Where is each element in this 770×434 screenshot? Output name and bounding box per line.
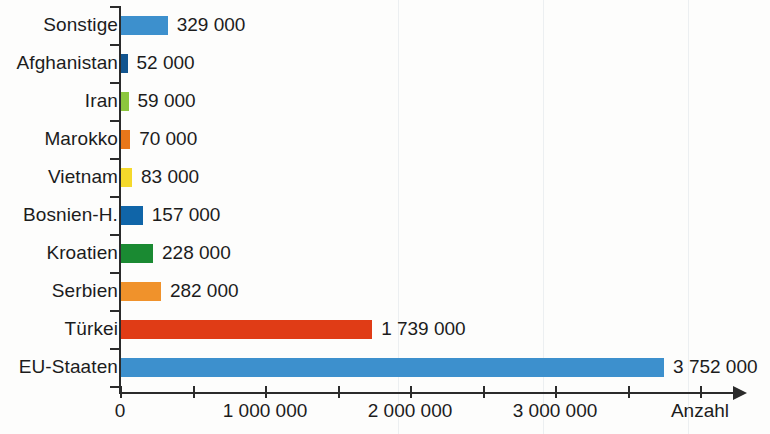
category-label: Marokko [0,128,118,150]
bar [120,92,129,111]
x-axis-tick-label: 2 000 000 [368,400,453,422]
x-axis-line [120,392,736,394]
bar-value-label: 329 000 [177,14,246,36]
bar-row: Vietnam83 000 [0,158,770,196]
bar-and-value: 83 000 [120,158,199,196]
bar [120,168,132,187]
bar-row: Sonstige329 000 [0,6,770,44]
bar-value-label: 52 000 [137,52,195,74]
bar-and-value: 70 000 [120,120,197,158]
x-axis-tick [555,386,557,398]
bar-chart: Sonstige329 000Afghanistan52 000Iran59 0… [0,0,770,434]
category-label: Afghanistan [0,52,118,74]
bar-value-label: 3 752 000 [673,356,758,378]
category-label: Bosnien-H. [0,204,118,226]
y-axis-tick [110,272,121,274]
bar-and-value: 1 739 000 [120,310,466,348]
bar-row: Iran59 000 [0,82,770,120]
y-axis-tick [110,310,121,312]
y-axis-tick [110,196,121,198]
category-label: Vietnam [0,166,118,188]
bar-value-label: 70 000 [139,128,197,150]
bar [120,130,130,149]
bar-value-label: 1 739 000 [381,318,466,340]
bar [120,282,161,301]
bar-row: Marokko70 000 [0,120,770,158]
category-label: EU-Staaten [0,356,118,378]
bar-and-value: 329 000 [120,6,245,44]
bar-value-label: 83 000 [141,166,199,188]
bar [120,54,128,73]
x-axis-tick [410,386,412,398]
x-axis-tick [120,386,122,398]
bar-row: Bosnien-H.157 000 [0,196,770,234]
bar [120,320,372,339]
y-axis-tick [110,158,121,160]
y-axis-tick [110,120,121,122]
y-axis-tick [110,82,121,84]
bar-row: Afghanistan52 000 [0,44,770,82]
x-axis-tick-label: 0 [115,400,126,422]
bar-and-value: 228 000 [120,234,231,272]
bar-and-value: 52 000 [120,44,195,82]
x-axis-tick [483,386,485,398]
bar-row: Serbien282 000 [0,272,770,310]
x-axis-tick [265,386,267,398]
category-label: Sonstige [0,14,118,36]
bar-value-label: 282 000 [170,280,239,302]
x-axis-tick [338,386,340,398]
x-axis-title: Anzahl [671,400,729,422]
category-label: Kroatien [0,242,118,264]
bar-value-label: 228 000 [162,242,231,264]
x-axis-tick [700,386,702,398]
category-label: Serbien [0,280,118,302]
x-axis-tick [628,386,630,398]
category-label: Türkei [0,318,118,340]
bar-row: Kroatien228 000 [0,234,770,272]
bar [120,244,153,263]
y-axis-line [119,6,121,394]
bar [120,206,143,225]
bar [120,358,664,377]
y-axis-tick [110,234,121,236]
bar [120,16,168,35]
x-axis-tick-label: 1 000 000 [223,400,308,422]
bar-value-label: 59 000 [138,90,196,112]
category-label: Iran [0,90,118,112]
y-axis-tick [110,6,121,8]
bar-and-value: 282 000 [120,272,239,310]
bar-row: Türkei1 739 000 [0,310,770,348]
bar-and-value: 157 000 [120,196,220,234]
bar-and-value: 59 000 [120,82,196,120]
bar-and-value: 3 752 000 [120,348,758,386]
x-axis-tick [193,386,195,398]
bar-row: EU-Staaten3 752 000 [0,348,770,386]
y-axis-tick [110,44,121,46]
x-axis-tick-label: 3 000 000 [513,400,598,422]
bar-value-label: 157 000 [152,204,221,226]
x-axis-arrow-icon [733,386,747,400]
y-axis-tick [110,348,121,350]
